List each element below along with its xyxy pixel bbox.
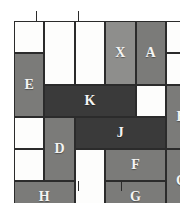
bottom-tick-0 <box>78 181 79 191</box>
piece-label: C <box>176 174 180 188</box>
cell-r2c4-blank[interactable] <box>136 85 166 117</box>
piece-e[interactable]: E <box>14 53 44 117</box>
cell-r1c5-blank[interactable] <box>166 53 180 85</box>
piece-label: A <box>146 46 156 60</box>
top-tick-0 <box>36 11 37 21</box>
piece-f[interactable]: F <box>105 149 166 181</box>
cell-r0c5-blank[interactable] <box>166 21 180 53</box>
cell-r0c2-blank[interactable] <box>75 21 105 85</box>
polyomino-grid: XAEKBDJFCHG <box>14 21 166 181</box>
piece-label: X <box>115 46 125 60</box>
piece-j[interactable]: J <box>75 117 166 149</box>
piece-label: H <box>39 190 50 203</box>
piece-a[interactable]: A <box>136 21 166 85</box>
piece-label: J <box>117 126 124 140</box>
top-tick-1 <box>78 11 79 21</box>
puzzle-figure: XAEKBDJFCHG <box>0 0 180 203</box>
cell-r0c1-blank[interactable] <box>44 21 74 85</box>
bottom-tick-1 <box>121 181 122 191</box>
piece-b[interactable]: B <box>166 85 180 149</box>
piece-label: D <box>54 142 64 156</box>
piece-c[interactable]: C <box>166 149 180 203</box>
cell-r4c0-blank[interactable] <box>14 149 44 181</box>
cell-r0c0-blank[interactable] <box>14 21 44 53</box>
piece-x[interactable]: X <box>105 21 135 85</box>
piece-label: G <box>130 190 141 203</box>
piece-label: K <box>84 94 95 108</box>
piece-label: B <box>176 110 180 124</box>
piece-label: F <box>131 158 140 172</box>
piece-g[interactable]: G <box>105 181 166 203</box>
piece-label: E <box>24 78 34 92</box>
piece-k[interactable]: K <box>44 85 135 117</box>
cell-r4c2-blank[interactable] <box>75 149 105 203</box>
piece-h[interactable]: H <box>14 181 75 203</box>
piece-d[interactable]: D <box>44 117 74 181</box>
cell-r3c0-blank[interactable] <box>14 117 44 149</box>
